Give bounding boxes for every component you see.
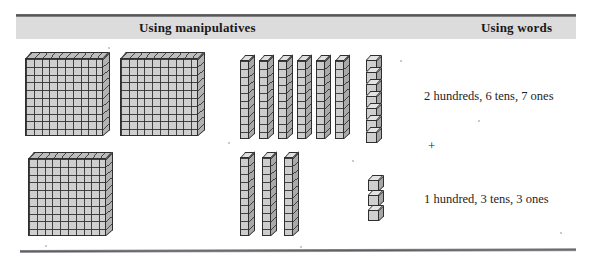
tens-rod-side-facet <box>325 55 331 139</box>
words-second-addend: 1 hundred, 3 tens, 3 ones <box>424 192 549 207</box>
scan-speck <box>352 160 354 162</box>
hundreds-flat-side-facet <box>103 52 110 136</box>
tens-rod-face-facet <box>284 157 293 236</box>
ones-cube-side-facet <box>379 175 384 191</box>
ones-cube-side-facet <box>379 190 384 206</box>
hundreds-flat <box>120 52 198 130</box>
tens-rod-face-facet <box>335 60 344 139</box>
tens-rod-side-facet <box>287 55 293 139</box>
scan-speck <box>108 47 110 49</box>
scan-speck <box>300 246 302 248</box>
tens-rod <box>297 55 306 139</box>
tens-rod-side-facet <box>249 55 255 139</box>
hundreds-flat-face-facet <box>28 158 106 236</box>
ones-cube-side-facet <box>379 205 384 221</box>
tens-rod-face-facet <box>262 157 271 236</box>
tens-rod-side-facet <box>268 55 274 139</box>
ones-cube <box>368 205 379 221</box>
scan-speck <box>400 60 402 62</box>
words-first-addend: 2 hundreds, 6 tens, 7 ones <box>424 89 554 104</box>
scan-speck <box>228 142 230 144</box>
ones-cube-face-facet <box>368 210 379 221</box>
tens-rod-face-facet <box>259 60 268 139</box>
scan-speck <box>478 120 480 122</box>
hundreds-flat <box>28 152 106 230</box>
ones-cube-side-facet <box>377 127 382 143</box>
hundreds-flat-side-facet <box>198 52 205 136</box>
tens-rod-face-facet <box>297 60 306 139</box>
tens-rod-face-facet <box>278 60 287 139</box>
manipulatives-blocks-layer <box>0 0 592 260</box>
tens-rod <box>335 55 344 139</box>
tens-rod <box>262 152 271 236</box>
hundreds-flat <box>25 52 103 130</box>
tens-rod-side-facet <box>271 152 277 236</box>
tens-rod <box>284 152 293 236</box>
tens-rod-face-facet <box>240 157 249 236</box>
tens-rod-side-facet <box>306 55 312 139</box>
tens-rod-side-facet <box>293 152 299 236</box>
scan-speck <box>45 245 47 247</box>
hundreds-flat-side-facet <box>106 152 113 236</box>
tens-rod <box>240 55 249 139</box>
tens-rod <box>240 152 249 236</box>
ones-cube <box>368 175 379 191</box>
tens-rod <box>316 55 325 139</box>
hundreds-flat-face-facet <box>120 58 198 136</box>
words-plus-operator: + <box>428 138 435 154</box>
tens-rod-face-facet <box>240 60 249 139</box>
ones-cube-face-facet <box>366 132 377 143</box>
scan-speck <box>560 232 562 234</box>
ones-cube <box>366 127 377 143</box>
ones-cube <box>368 190 379 206</box>
tens-rod <box>278 55 287 139</box>
tens-rod-side-facet <box>249 152 255 236</box>
base-ten-blocks-figure: Using manipulatives Using words 2 hundre… <box>0 0 592 260</box>
tens-rod <box>259 55 268 139</box>
tens-rod-side-facet <box>344 55 350 139</box>
hundreds-flat-face-facet <box>25 58 103 136</box>
tens-rod-face-facet <box>316 60 325 139</box>
